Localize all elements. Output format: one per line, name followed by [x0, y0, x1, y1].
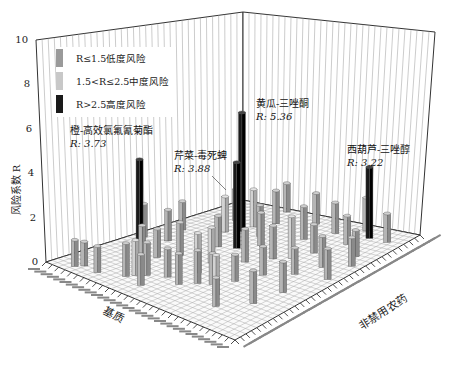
z-tick-label: 10	[15, 34, 28, 45]
y-axis-label: 非禁用农药	[356, 291, 410, 332]
risk-bar	[348, 236, 355, 266]
risk-bar	[222, 195, 229, 232]
annotation-celery: 芹菜-毒死蜱 R: 3.88	[174, 149, 227, 175]
risk-bar	[291, 246, 298, 274]
risk-bar	[71, 238, 78, 266]
risk-bar	[313, 192, 320, 225]
risk-bar	[250, 188, 257, 227]
annotation-orange: 橙-高效氯氟氰菊酯 R: 3.73	[70, 124, 153, 150]
risk-bar	[270, 224, 277, 259]
risk-bar	[194, 249, 201, 284]
annotation-zucchini-name: 西葫芦-三唑醇	[347, 143, 410, 156]
risk-bar	[260, 245, 267, 275]
legend-swatch-medium	[56, 72, 63, 90]
risk-bar	[310, 223, 317, 253]
risk-bar	[154, 227, 161, 257]
legend-label-high: R>2.5高度风险	[76, 97, 146, 111]
legend-label-medium: 1.5<R≤2.5中度风险	[76, 74, 169, 88]
z-axis-label: 风险系数 R	[10, 164, 22, 215]
risk-bar	[177, 221, 184, 256]
risk-bar	[250, 269, 257, 304]
legend-swatch-low	[56, 49, 63, 67]
risk-bar	[175, 252, 182, 285]
z-tick-label: 6	[26, 123, 32, 134]
risk-bar	[212, 276, 219, 306]
legend-item-high: R>2.5高度风险	[56, 95, 146, 113]
risk-bar	[122, 242, 129, 277]
annotation-cucumber-value: R: 5.36	[256, 110, 309, 123]
risk-bar	[332, 201, 339, 234]
z-tick-label: 0	[32, 256, 38, 267]
risk-bar	[280, 260, 287, 293]
risk-bar	[137, 253, 144, 286]
risk-bar	[258, 211, 265, 246]
legend-item-low: R≤1.5低度风险	[56, 49, 146, 67]
z-tick-label: 2	[30, 212, 36, 223]
annotation-cucumber-name: 黄瓜-三唑酮	[256, 97, 309, 110]
annotation-zucchini-value: R: 3.22	[347, 156, 410, 169]
risk-bar	[324, 247, 331, 280]
bar3d-chart: 0246810风险系数 R基质非禁用农药 R≤1.5低度风险 1.5<R≤2.5…	[0, 0, 459, 367]
risk-bar	[283, 182, 290, 212]
risk-bar	[164, 247, 171, 277]
risk-bar	[242, 227, 249, 262]
annotation-zucchini: 西葫芦-三唑醇 R: 3.22	[347, 143, 410, 169]
high-risk-bar	[366, 165, 373, 238]
high-risk-bar	[233, 161, 240, 249]
risk-bar	[300, 205, 307, 240]
legend-swatch-high	[56, 95, 63, 113]
annotation-orange-name: 橙-高效氯氟氰菊酯	[70, 124, 153, 137]
risk-bar	[384, 212, 391, 242]
z-tick-label: 4	[28, 167, 34, 178]
annotation-orange-value: R: 3.73	[70, 137, 153, 150]
risk-bar	[165, 208, 172, 241]
risk-bar	[94, 245, 101, 273]
annotation-celery-value: R: 3.88	[174, 162, 227, 175]
z-tick-label: 8	[24, 78, 30, 89]
legend: R≤1.5低度风险 1.5<R≤2.5中度风险 R>2.5高度风险	[56, 47, 176, 117]
annotation-cucumber: 黄瓜-三唑酮 R: 5.36	[256, 97, 309, 123]
risk-bar	[273, 189, 280, 224]
legend-item-medium: 1.5<R≤2.5中度风险	[56, 72, 169, 90]
risk-bar	[232, 253, 239, 281]
annotation-celery-name: 芹菜-毒死蜱	[174, 149, 227, 162]
risk-bar	[215, 214, 222, 247]
legend-label-low: R≤1.5低度风险	[76, 51, 146, 65]
risk-bar	[81, 240, 88, 266]
